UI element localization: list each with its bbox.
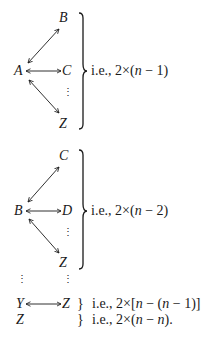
node-a: A	[14, 64, 23, 78]
vertical-ellipsis: ⋮	[63, 230, 69, 234]
vertical-ellipsis-right: ⋮	[63, 277, 69, 281]
arrow-layer	[0, 0, 214, 339]
node-z-last: Z	[16, 313, 24, 327]
node-z: Z	[59, 256, 67, 270]
node-y: Y	[16, 297, 24, 311]
note-group2: i.e., 2×(n − 2)	[91, 204, 168, 218]
node-z: Z	[62, 297, 70, 311]
node-b: B	[59, 11, 68, 25]
vertical-ellipsis-left: ⋮	[17, 277, 23, 281]
note-row-z: i.e., 2×(n − n).	[92, 313, 173, 327]
node-b: B	[14, 204, 23, 218]
arrow-a-z	[29, 80, 59, 113]
note-row-y: i.e., 2×[n − (n − 1)]	[92, 297, 200, 311]
brace-small: }	[77, 313, 84, 327]
node-c: C	[62, 64, 71, 78]
arrow-b-c	[28, 167, 59, 202]
brace-small: }	[77, 297, 84, 311]
node-z: Z	[59, 117, 67, 131]
vertical-ellipsis: ⋮	[63, 90, 69, 94]
brace-group2	[79, 150, 87, 269]
arrow-b-z	[29, 219, 59, 253]
node-d: D	[62, 204, 72, 218]
node-c: C	[59, 149, 68, 163]
brace-group1	[79, 13, 87, 129]
arrow-a-b	[28, 29, 59, 63]
note-group1: i.e., 2×(n − 1)	[91, 64, 168, 78]
